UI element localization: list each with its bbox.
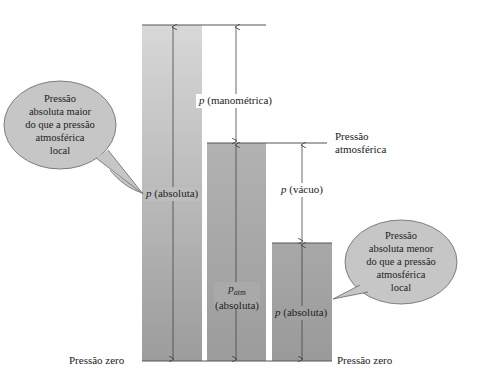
- callout-line: local: [8, 144, 112, 157]
- label-line-1: Pressão: [335, 130, 386, 143]
- label-zero-pressure-right: Pressão zero: [337, 354, 392, 367]
- callout-line: absoluta menor: [349, 242, 453, 255]
- label-zero-pressure-left: Pressão zero: [69, 354, 124, 367]
- subscript-atm: atm: [234, 288, 246, 297]
- label-gauge-pressure: p (manométrica): [199, 94, 272, 107]
- label-text: (manométrica): [205, 94, 273, 106]
- callout-line: atmosférica: [8, 131, 112, 144]
- label-text: (absoluta): [281, 306, 328, 318]
- callout-line: do que a pressão: [349, 255, 453, 268]
- label-text: (vácuo): [287, 183, 323, 195]
- label-absolute-atm: patm (absoluta): [212, 282, 262, 312]
- callout-text-left: Pressão absoluta maior do que a pressão …: [8, 92, 112, 157]
- callout-text-right: Pressão absoluta menor do que a pressão …: [349, 229, 453, 294]
- callout-line: Pressão: [8, 92, 112, 105]
- bar-atmospheric: [207, 143, 266, 361]
- callout-line: local: [349, 281, 453, 294]
- callout-line: do que a pressão: [8, 118, 112, 131]
- callout-line: absoluta maior: [8, 105, 112, 118]
- callout-line: atmosférica: [349, 268, 453, 281]
- callout-line: Pressão: [349, 229, 453, 242]
- label-text: (absoluta): [152, 187, 199, 199]
- label-text: (absoluta): [212, 299, 262, 312]
- label-line-2: atmosférica: [335, 143, 386, 156]
- label-absolute-low: p (absoluta): [275, 306, 327, 319]
- label-atmospheric-pressure: Pressão atmosférica: [335, 130, 386, 156]
- pressure-diagram: [0, 0, 477, 386]
- label-absolute-high: p (absoluta): [146, 187, 198, 200]
- label-vacuum-pressure: p (vácuo): [281, 183, 323, 196]
